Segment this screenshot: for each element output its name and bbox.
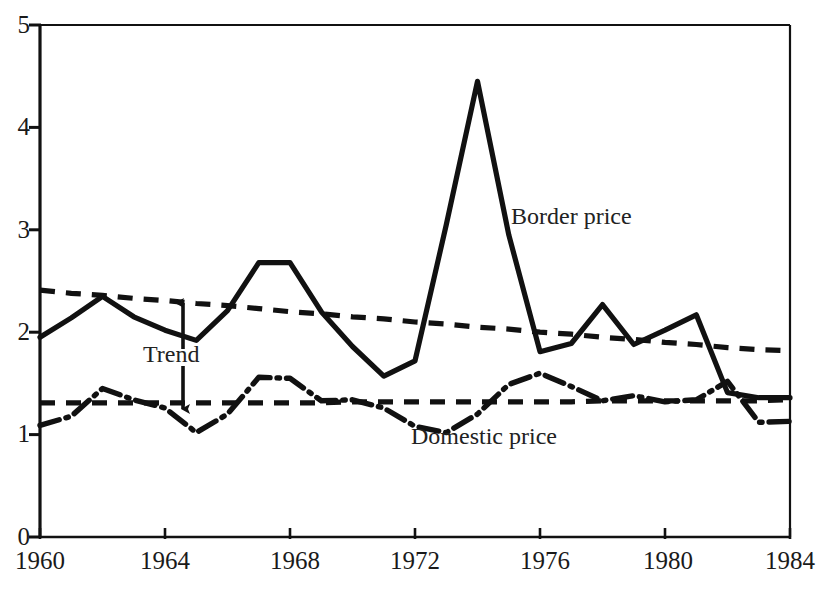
y-tick-label-2: 2	[0, 319, 30, 344]
x-tick-label-1976: 1976	[500, 548, 590, 573]
border-price-label: Border price	[511, 203, 632, 230]
x-tick-label-1984: 1984	[745, 548, 818, 573]
y-tick-label-5: 5	[0, 12, 30, 37]
axis-lines	[40, 25, 790, 537]
x-tick-label-1980: 1980	[623, 548, 713, 573]
domestic-price-label: Domestic price	[411, 423, 557, 450]
y-tick-label-3: 3	[0, 217, 30, 242]
x-tick-label-1968: 1968	[250, 548, 340, 573]
x-tick-label-1960: 1960	[0, 548, 85, 573]
y-tick-label-1: 1	[0, 421, 30, 446]
chart-container: 5 4 3 2 1 0 1960 1964 1968 1972 1976 198…	[0, 0, 818, 590]
chart-plot-area	[0, 0, 818, 590]
trend-label: Trend	[143, 341, 199, 368]
y-tick-label-4: 4	[0, 114, 30, 139]
x-tick-label-1964: 1964	[120, 548, 210, 573]
x-tick-label-1972: 1972	[370, 548, 460, 573]
y-tick-label-0: 0	[0, 524, 30, 549]
